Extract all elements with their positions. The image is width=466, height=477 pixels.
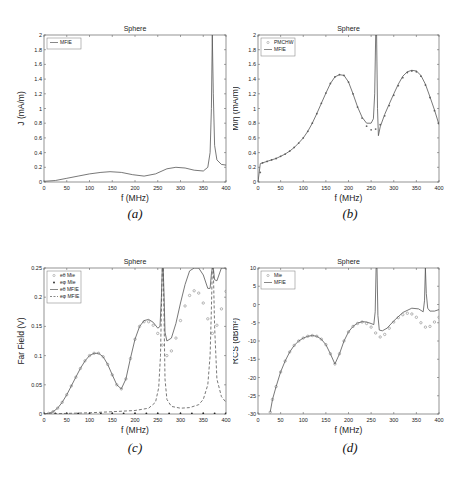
y-tick-label: 1.6 — [34, 61, 42, 67]
x-tick-label: 250 — [153, 417, 162, 423]
y-tick-label: 5 — [253, 283, 256, 289]
x-tick-label: 300 — [389, 185, 398, 191]
x-axis-label: f (MHz) — [335, 193, 363, 203]
legend-entry: MFIE — [274, 46, 287, 52]
y-tick-label: 10 — [250, 265, 256, 271]
x-tick-label: 50 — [64, 417, 70, 423]
caption-b: (b) — [330, 206, 370, 222]
legend-entry: eθ Mie — [60, 272, 75, 278]
legend-entry: PMCHW — [274, 39, 294, 45]
x-tick-label: 250 — [367, 185, 376, 191]
y-tick-label: 0.6 — [248, 135, 256, 141]
y-tick-label: 0.4 — [248, 150, 256, 156]
legend-entry: eφ MFIE — [60, 293, 80, 299]
x-tick-label: 100 — [85, 417, 94, 423]
y-tick-label: -10 — [248, 338, 256, 344]
x-tick-label: 400 — [434, 185, 443, 191]
y-tick-label: 0.05 — [31, 382, 42, 388]
series-line — [270, 268, 439, 412]
x-tick-label: 200 — [130, 185, 139, 191]
x-tick-label: 350 — [412, 185, 421, 191]
x-tick-label: 200 — [344, 417, 353, 423]
legend: MFIE — [47, 38, 81, 49]
legend-entry: eθ MFIE — [60, 286, 80, 292]
x-tick-label: 150 — [108, 185, 117, 191]
y-tick-label: 0 — [253, 302, 256, 308]
chart-title: Sphere — [337, 258, 360, 266]
x-axis-label: f (MHz) — [121, 425, 149, 435]
y-tick-label: 0.15 — [31, 323, 42, 329]
x-axis-label: f (MHz) — [121, 193, 149, 203]
plot-b: Sphere05010015020025030035040000.20.40.6… — [233, 0, 466, 240]
legend: PMCHWMFIE — [261, 38, 295, 56]
chart-title: Sphere — [337, 25, 360, 33]
x-tick-label: 50 — [278, 417, 284, 423]
legend: eθ Mieeφ Mieeθ MFIEeφ MFIE — [47, 271, 81, 303]
x-tick-label: 400 — [434, 417, 443, 423]
y-tick-label: 0.2 — [34, 294, 42, 300]
x-tick-label: 250 — [153, 185, 162, 191]
y-tick-label: 0.8 — [248, 120, 256, 126]
caption-d: (d) — [330, 440, 370, 456]
y-tick-label: -5 — [251, 320, 256, 326]
y-tick-label: 1 — [39, 106, 42, 112]
y-tick-label: 0 — [253, 179, 256, 185]
caption-a: (a) — [115, 206, 155, 222]
y-axis-label: J (mA/m) — [16, 91, 26, 126]
x-tick-label: 200 — [130, 417, 139, 423]
y-tick-label: -15 — [248, 356, 256, 362]
y-tick-label: 1.2 — [248, 91, 256, 97]
x-tick-label: 100 — [299, 417, 308, 423]
x-tick-label: 300 — [389, 417, 398, 423]
x-tick-label: 100 — [85, 185, 94, 191]
x-tick-label: 50 — [278, 185, 284, 191]
y-tick-label: -20 — [248, 375, 256, 381]
y-tick-label: 0 — [39, 411, 42, 417]
x-tick-label: 150 — [321, 185, 330, 191]
legend-entry: Mie — [274, 272, 282, 278]
y-tick-label: 0 — [39, 179, 42, 185]
y-tick-label: 1.8 — [34, 47, 42, 53]
x-tick-label: 350 — [199, 417, 208, 423]
series-line — [258, 35, 439, 182]
x-tick-label: 0 — [256, 185, 259, 191]
chart-title: Sphere — [124, 25, 147, 33]
y-tick-label: 0.1 — [34, 353, 42, 359]
y-tick-label: 1.8 — [248, 47, 256, 53]
x-tick-label: 0 — [256, 417, 259, 423]
y-axis-label: RCS (dBm²) — [233, 318, 240, 364]
y-tick-label: 1.2 — [34, 91, 42, 97]
x-tick-label: 150 — [108, 417, 117, 423]
y-tick-label: 0.6 — [34, 135, 42, 141]
x-tick-label: 400 — [221, 185, 230, 191]
x-tick-label: 350 — [199, 185, 208, 191]
x-tick-label: 250 — [367, 417, 376, 423]
x-tick-label: 350 — [412, 417, 421, 423]
y-tick-label: 1.4 — [34, 76, 42, 82]
legend-entry: MFIE — [60, 39, 73, 45]
y-tick-label: 0.25 — [31, 265, 42, 271]
y-tick-label: 0.2 — [34, 164, 42, 170]
plot-frame — [258, 268, 439, 414]
series-line — [44, 35, 226, 181]
x-axis-label: f (MHz) — [335, 425, 363, 435]
y-tick-label: 2 — [39, 32, 42, 38]
legend-entry: MFIE — [274, 279, 287, 285]
caption-c: (c) — [115, 440, 155, 456]
legend-entry: eφ Mie — [60, 279, 76, 285]
x-tick-label: 0 — [42, 185, 45, 191]
y-tick-label: 0.8 — [34, 120, 42, 126]
chart-title: Sphere — [124, 258, 147, 266]
y-tick-label: -25 — [248, 393, 256, 399]
plot-frame — [258, 35, 439, 182]
x-tick-label: 400 — [221, 417, 230, 423]
y-axis-label: M/η (mA/m) — [233, 86, 240, 131]
plot-a: Sphere05010015020025030035040000.20.40.6… — [0, 0, 233, 240]
x-tick-label: 50 — [64, 185, 70, 191]
y-tick-label: 1 — [253, 106, 256, 112]
y-tick-label: 2 — [253, 32, 256, 38]
y-tick-label: -30 — [248, 411, 256, 417]
x-tick-label: 100 — [299, 185, 308, 191]
x-tick-label: 0 — [42, 417, 45, 423]
y-tick-label: 0.2 — [248, 164, 256, 170]
